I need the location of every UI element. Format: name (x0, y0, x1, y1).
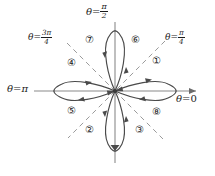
arrow-arc-2 (102, 110, 107, 117)
origin-point (113, 89, 117, 93)
fraction-denominator-4-nw: 4 (41, 37, 52, 46)
petal-right-upper-arc-1 (115, 82, 176, 91)
petal-top-right-arc-6 (115, 31, 124, 91)
petal-left-lower-arc-5 (54, 91, 115, 100)
equals-symbol-nw: = (33, 32, 41, 42)
arrow-arc-3 (124, 116, 129, 123)
arc-label-7: ⑦ (85, 35, 94, 45)
equals-symbol-up: = (92, 6, 100, 17)
equals-symbol-ne: = (170, 32, 178, 42)
fraction-pi-over-2: π2 (100, 3, 107, 21)
arc-label-1: ① (152, 56, 161, 66)
arc-label-5: ⑤ (67, 106, 76, 116)
axis-label-theta-pi: θ=π (7, 84, 28, 94)
fraction-numerator-pi-ne: π (178, 29, 185, 37)
arc-label-8: ⑧ (152, 107, 161, 117)
fraction-numerator-3pi: 3π (41, 29, 52, 37)
fraction-denominator-2: 2 (100, 11, 107, 20)
pi-symbol-left: π (21, 83, 28, 94)
arc-label-2: ② (85, 125, 94, 135)
arc-label-4: ④ (67, 58, 76, 68)
polar-rose-figure: θ=π2 θ=3π4 θ=π4 θ=π θ=0 ① ② ③ ④ ⑤ ⑥ ⑦ ⑧ (0, 0, 215, 176)
polar-plot-canvas (0, 0, 215, 176)
fraction-3pi-over-4: 3π4 (41, 29, 52, 45)
fraction-denominator-4-ne: 4 (178, 37, 185, 46)
petal-bottom-right-arc-3 (115, 91, 124, 151)
petal-left-upper-arc-4 (54, 82, 115, 91)
axis-label-theta-zero: θ=0 (176, 94, 197, 104)
axis-label-theta-pi-over-4: θ=π4 (165, 29, 185, 45)
arrow-arc-7 (102, 51, 107, 58)
petal-bottom-left-arc-2 (106, 91, 115, 151)
zero-symbol-right: 0 (190, 93, 196, 104)
arrow-arc-6 (124, 67, 129, 74)
fraction-numerator-pi: π (100, 3, 107, 11)
petal-top-left-arc-7 (106, 31, 115, 91)
arc-label-3: ③ (135, 125, 144, 135)
petal-right-lower-arc-8 (115, 91, 176, 100)
fraction-pi-over-4: π4 (178, 29, 185, 45)
axis-label-theta-3pi-over-4: θ=3π4 (28, 29, 52, 45)
axis-label-theta-pi-over-2: θ=π2 (86, 3, 108, 21)
arc-label-6: ⑥ (131, 35, 140, 45)
